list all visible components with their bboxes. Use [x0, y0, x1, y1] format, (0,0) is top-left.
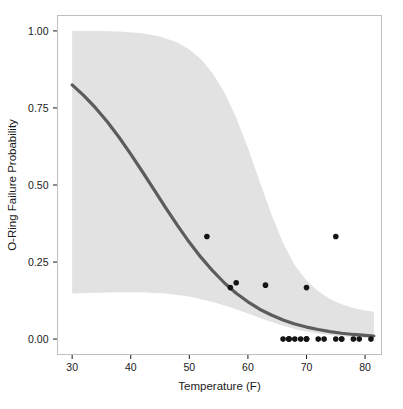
- data-point: [333, 336, 339, 342]
- data-point: [368, 336, 374, 342]
- x-axis-tick-label: 70: [301, 361, 313, 373]
- y-axis-tick-label: 0.00: [28, 333, 49, 345]
- y-axis-tick-label: 0.50: [28, 179, 49, 191]
- data-point: [304, 285, 310, 291]
- x-axis-tick-label: 30: [66, 361, 78, 373]
- data-point: [351, 336, 357, 342]
- data-point: [333, 234, 339, 240]
- x-axis-tick-label: 40: [125, 361, 137, 373]
- data-point: [339, 336, 345, 342]
- data-point: [286, 336, 292, 342]
- data-point: [315, 336, 321, 342]
- y-axis-title: O-Ring Failure Probability: [6, 119, 18, 251]
- chart-figure: 0.000.250.500.751.00 304050607080 Temper…: [0, 0, 403, 409]
- x-axis-tick-label: 60: [242, 361, 254, 373]
- data-point: [233, 280, 239, 286]
- data-point: [280, 336, 286, 342]
- x-axis-tick-label: 50: [183, 361, 195, 373]
- data-point: [304, 336, 310, 342]
- data-point: [321, 336, 327, 342]
- y-axis-tick-label: 0.75: [28, 102, 49, 114]
- data-point: [292, 336, 298, 342]
- data-point: [356, 336, 362, 342]
- data-point: [263, 282, 269, 288]
- data-point: [298, 336, 304, 342]
- x-axis-title: Temperature (F): [178, 380, 261, 392]
- data-point: [228, 285, 234, 291]
- y-axis-tick-label: 1.00: [28, 25, 49, 37]
- oring-failure-probability-plot: 0.000.250.500.751.00 304050607080 Temper…: [0, 0, 403, 409]
- y-axis-tick-label: 0.25: [28, 256, 49, 268]
- data-point: [204, 234, 210, 240]
- x-axis-tick-label: 80: [359, 361, 371, 373]
